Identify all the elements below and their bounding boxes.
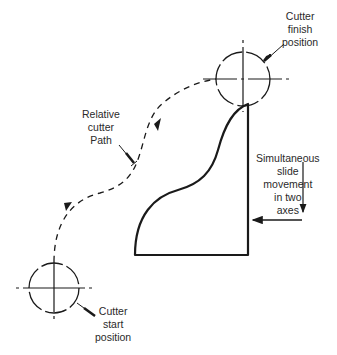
leader-path (119, 145, 137, 166)
workpiece (135, 104, 248, 255)
leader-start (77, 303, 95, 316)
label-cutter-start-position: Cutter start position (95, 305, 131, 344)
cutter-start-circle (16, 262, 92, 320)
leader-finish (264, 44, 284, 61)
label-cutter-finish-position: Cutter finish position (282, 10, 318, 49)
label-relative-cutter-path: Relative cutter Path (82, 108, 120, 147)
label-simultaneous-slide-movement: Simultaneous slide movement in two axes (256, 152, 320, 217)
relative-cutter-path (54, 79, 216, 262)
path-direction-arrow-upper (154, 118, 161, 131)
